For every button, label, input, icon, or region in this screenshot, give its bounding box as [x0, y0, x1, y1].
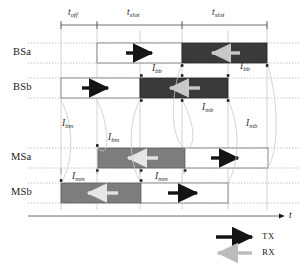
timing-diagram-canvas	[0, 0, 307, 264]
interval-sub: mm	[75, 175, 85, 182]
legend-label-rx: RX	[262, 247, 275, 257]
row-label-bsb: BSb	[13, 81, 32, 92]
row-BSa	[97, 43, 267, 63]
interval-sub: bb	[243, 65, 250, 72]
interval-sub: bm	[111, 136, 119, 143]
interval-label-imb-left: Imb	[202, 102, 213, 112]
interval-label-imb-right: Imb	[246, 118, 257, 128]
legend-arrows	[216, 237, 252, 253]
axis-label-t: t	[289, 210, 292, 220]
interval-sub: bm	[65, 122, 73, 129]
interval-label-imm-left: Imm	[72, 171, 85, 181]
dim-sub-t-slot-2: slot	[215, 11, 225, 18]
top-dimension-line	[61, 21, 267, 29]
interval-label-ibm-left: Ibm	[62, 118, 73, 128]
dim-sub-t-slot-1: slot	[130, 11, 140, 18]
legend-label-tx: TX	[262, 231, 275, 241]
interval-sub: bb	[155, 67, 162, 74]
interval-label-imm-right: Imm	[155, 171, 168, 181]
interval-sub: mb	[205, 106, 213, 113]
interval-label-ibm-right: Ibm	[108, 132, 119, 142]
row-label-bsa: BSa	[13, 46, 31, 57]
dim-label-t-off: toff	[68, 7, 78, 17]
row-MSa	[98, 148, 268, 168]
interval-sub: mm	[158, 175, 168, 182]
interval-label-ibb-left: Ibb	[152, 63, 162, 73]
interval-label-ibb-right: Ibb	[240, 61, 250, 71]
row-label-msa: MSa	[11, 151, 31, 162]
interval-sub: mb	[249, 122, 257, 129]
dim-sub-t-off: off	[71, 11, 78, 18]
dim-label-t-slot-2: tslot	[212, 7, 224, 17]
row-BSb	[61, 78, 228, 98]
row-MSb	[61, 183, 228, 203]
row-label-msb: MSb	[11, 186, 32, 197]
dim-label-t-slot-1: tslot	[127, 7, 139, 17]
